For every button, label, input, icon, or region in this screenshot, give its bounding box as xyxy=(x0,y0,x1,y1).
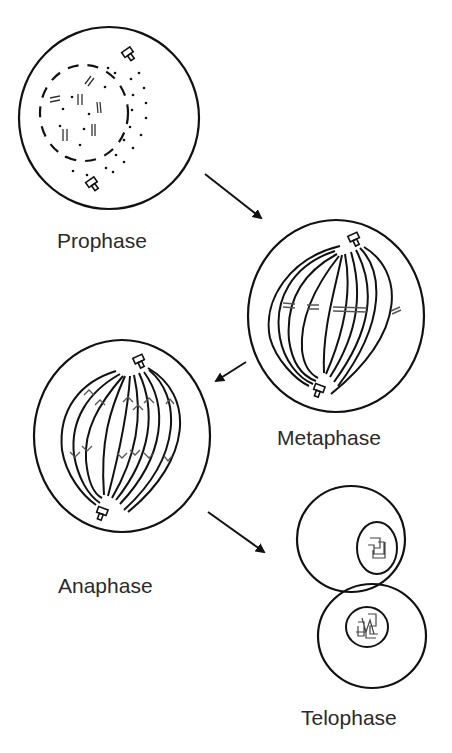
centrosome-icon xyxy=(348,232,362,247)
metaphase-cell xyxy=(248,220,424,412)
arrow-prophase-to-metaphase xyxy=(205,174,261,218)
stage-label-telophase: Telophase xyxy=(301,706,397,730)
spindle-fibers xyxy=(62,368,181,512)
centrosome-icon xyxy=(122,47,137,63)
arrow-anaphase-to-telophase xyxy=(208,512,264,552)
metaphase-plate-chromosomes xyxy=(283,303,401,314)
arrow-metaphase-to-anaphase xyxy=(216,362,246,381)
telophase-cells xyxy=(297,486,426,688)
spindle-fibers xyxy=(269,246,392,394)
daughter-cell-top xyxy=(297,486,405,592)
chromosomes xyxy=(50,76,101,141)
stage-label-metaphase: Metaphase xyxy=(277,426,381,450)
chromatin xyxy=(356,614,378,638)
centrosome-icon xyxy=(86,177,101,193)
stage-label-prophase: Prophase xyxy=(57,229,147,253)
chromatin xyxy=(368,538,385,558)
centrosome-icon xyxy=(95,507,109,522)
nuclear-envelope-dashed xyxy=(40,65,128,161)
anaphase-cell xyxy=(34,340,210,532)
mitosis-diagram xyxy=(0,0,452,753)
prophase-cell xyxy=(19,27,199,209)
daughter-cell-bottom xyxy=(318,584,426,688)
stage-label-anaphase: Anaphase xyxy=(58,574,153,598)
centrosome-icon xyxy=(312,384,326,399)
nucleus xyxy=(346,607,388,647)
centrosome-icon xyxy=(133,354,147,369)
